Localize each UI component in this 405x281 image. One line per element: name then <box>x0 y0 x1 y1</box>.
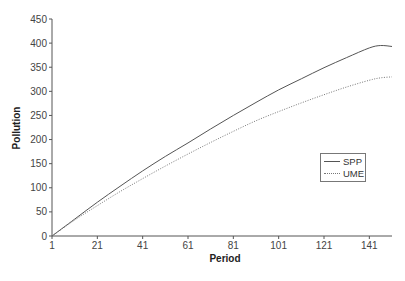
svg-text:100: 100 <box>30 182 47 193</box>
legend-item-ume: UME <box>324 167 364 179</box>
svg-text:101: 101 <box>270 240 287 251</box>
svg-text:81: 81 <box>228 240 240 251</box>
y-axis: 050100150200250300350400450 <box>30 14 52 242</box>
svg-text:21: 21 <box>92 240 104 251</box>
svg-text:400: 400 <box>30 38 47 49</box>
y-axis-label: Pollution <box>11 107 22 150</box>
series-lines <box>52 45 392 236</box>
svg-text:150: 150 <box>30 158 47 169</box>
legend-label: UME <box>343 168 364 179</box>
svg-text:61: 61 <box>182 240 194 251</box>
svg-text:300: 300 <box>30 86 47 97</box>
svg-text:350: 350 <box>30 62 47 73</box>
svg-text:1: 1 <box>49 240 55 251</box>
solid-line-icon <box>324 161 340 162</box>
svg-text:141: 141 <box>361 240 378 251</box>
legend-item-spp: SPP <box>324 155 362 167</box>
svg-text:121: 121 <box>316 240 333 251</box>
chart: 050100150200250300350400450 121416181101… <box>0 0 405 281</box>
dotted-line-icon <box>324 173 340 174</box>
x-axis: 121416181101121141 <box>49 236 392 251</box>
svg-text:200: 200 <box>30 134 47 145</box>
svg-text:250: 250 <box>30 110 47 121</box>
x-axis-label: Period <box>209 253 240 264</box>
legend: SPP UME <box>320 153 366 182</box>
legend-label: SPP <box>343 156 362 167</box>
svg-text:0: 0 <box>41 231 47 242</box>
svg-text:50: 50 <box>36 206 48 217</box>
svg-text:450: 450 <box>30 14 47 25</box>
svg-text:41: 41 <box>137 240 149 251</box>
